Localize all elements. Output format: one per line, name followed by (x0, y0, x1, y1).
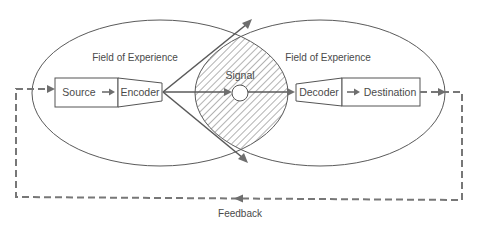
decoder-label: Decoder (299, 86, 339, 98)
communication-diagram: Field of Experience Field of Experience … (0, 0, 479, 227)
encoder-label: Encoder (120, 86, 160, 98)
sender-field-label: Field of Experience (92, 52, 178, 63)
signal-node (232, 85, 248, 101)
arrow-into-source-icon (47, 85, 55, 93)
arrow-to-decoder-icon (287, 88, 295, 96)
signal-label: Signal (225, 69, 254, 81)
source-label: Source (62, 86, 95, 98)
arrow-feedback-left-icon (234, 195, 243, 203)
destination-label: Destination (364, 86, 417, 98)
feedback-label: Feedback (218, 208, 263, 219)
receiver-field-label: Field of Experience (285, 52, 371, 63)
